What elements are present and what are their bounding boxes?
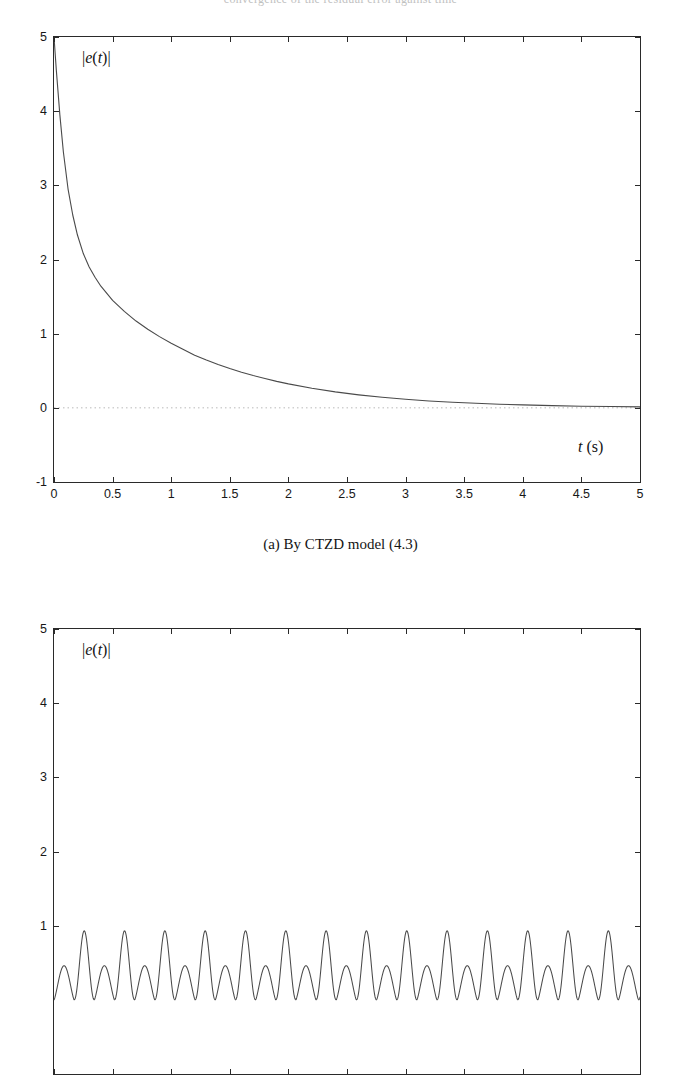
- x-tick: [523, 1069, 524, 1074]
- x-tick: [464, 1069, 465, 1074]
- y-tick-label: 5: [40, 622, 47, 636]
- x-tick: [523, 629, 524, 634]
- y-tick: [54, 703, 59, 704]
- y-tick: [54, 629, 59, 630]
- y-tick: [635, 852, 640, 853]
- plot-frame-b: [53, 628, 641, 1075]
- oscillation-curve-svg: [54, 629, 640, 1074]
- y-tick: [635, 926, 640, 927]
- y-tick: [635, 703, 640, 704]
- y-tick: [54, 777, 59, 778]
- x-tick: [113, 1069, 114, 1074]
- y-tick: [635, 777, 640, 778]
- x-tick: [171, 629, 172, 634]
- x-tick: [347, 1069, 348, 1074]
- x-tick: [406, 629, 407, 634]
- y-tick: [54, 926, 59, 927]
- x-tick: [288, 1069, 289, 1074]
- y-tick: [635, 629, 640, 630]
- x-tick: [288, 629, 289, 634]
- plot-area-b: [54, 629, 640, 1074]
- y-tick-label: 3: [40, 770, 47, 784]
- y-tick-label: 4: [40, 696, 47, 710]
- x-tick: [230, 1069, 231, 1074]
- x-tick: [54, 1069, 55, 1074]
- x-tick: [640, 1069, 641, 1074]
- y-tick: [54, 852, 59, 853]
- x-tick: [581, 629, 582, 634]
- x-tick: [171, 1069, 172, 1074]
- y-axis-note-b: |e(t)|: [82, 641, 111, 659]
- x-tick: [581, 1069, 582, 1074]
- error-oscillation-curve: [54, 931, 640, 1000]
- y-tick-label: 2: [40, 845, 47, 859]
- x-tick: [113, 629, 114, 634]
- x-tick: [347, 629, 348, 634]
- y-tick-label: 1: [40, 919, 47, 933]
- x-tick: [406, 1069, 407, 1074]
- x-tick: [230, 629, 231, 634]
- x-tick: [464, 629, 465, 634]
- x-tick: [640, 629, 641, 634]
